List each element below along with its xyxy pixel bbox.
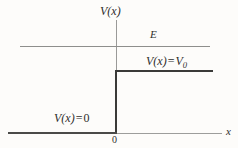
zero-potential-variable: V(x): [54, 111, 75, 125]
step-potential-label: V(x)=V0: [146, 55, 187, 70]
step-potential-value: V: [175, 54, 182, 68]
energy-level-line: [20, 46, 210, 47]
zero-potential-value: 0: [83, 111, 89, 125]
origin-tick-label: 0: [112, 135, 117, 145]
step-potential-subscript: 0: [183, 60, 187, 70]
zero-potential-label: V(x)=0: [54, 112, 89, 124]
step-potential-variable: V(x): [146, 54, 167, 68]
x-axis-line-right: [116, 133, 222, 134]
potential-step-figure: V(x) E V(x)=V0 V(x)=0 0 x: [0, 0, 238, 148]
potential-zero-level-line: [8, 132, 117, 134]
potential-step-top-line: [116, 70, 213, 72]
y-axis-label: V(x): [100, 5, 121, 17]
energy-level-label: E: [150, 29, 157, 40]
potential-step-riser-line: [115, 70, 117, 134]
x-axis-label: x: [226, 126, 231, 137]
